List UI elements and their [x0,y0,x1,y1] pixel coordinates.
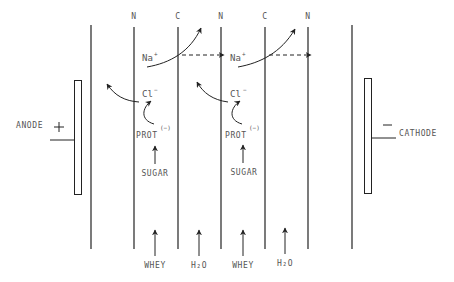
na-transport-arrow-1 [147,28,201,67]
svg-text:PROT: PROT [225,131,247,140]
svg-text:(−): (−) [160,124,171,131]
svg-text:PROT: PROT [136,131,158,140]
stream-label-whey-1: WHEY [144,261,166,270]
svg-text:Na: Na [142,53,153,63]
svg-text:Cl: Cl [142,89,153,99]
cl-ion-label-1: Cl − [142,86,158,99]
prot-label-2: PROT (−) [225,124,260,140]
sugar-label-1: SUGAR [141,169,168,178]
svg-text:Na: Na [230,53,241,63]
electrodialysis-diagram: N C N C N ANODE CATHODE Na + Cl − PROT (… [0,0,454,282]
na-transport-arrow-2 [238,29,295,67]
membrane-label: N [218,12,223,21]
membrane-label: N [131,12,136,21]
sugar-label-2: SUGAR [230,168,257,177]
prot-curved-arrow-1 [144,101,154,124]
prot-label-1: PROT (−) [136,124,171,140]
svg-text:+: + [242,50,246,57]
membrane-label: N [305,12,310,21]
cathode-label: CATHODE [399,129,437,138]
svg-text:−: − [243,86,247,93]
svg-text:(−): (−) [249,124,260,131]
plus-sign-icon [54,122,64,132]
anode-label: ANODE [16,121,43,130]
stream-label-water-2: H₂O [277,259,293,268]
svg-text:−: − [154,86,158,93]
membrane-label: C [175,12,180,21]
cathode-electrode [365,79,372,194]
prot-curved-arrow-2 [232,101,242,124]
stream-label-whey-2: WHEY [232,261,254,270]
anode-electrode [75,81,82,195]
na-ion-label-2: Na + [230,50,246,63]
cl-transport-arrow-2 [197,82,228,102]
cl-ion-label-2: Cl − [230,86,247,99]
stream-label-water-1: H₂O [191,261,207,270]
svg-text:+: + [154,50,158,57]
membrane-label: C [262,12,267,21]
na-ion-label-1: Na + [142,50,158,63]
svg-text:Cl: Cl [230,89,241,99]
